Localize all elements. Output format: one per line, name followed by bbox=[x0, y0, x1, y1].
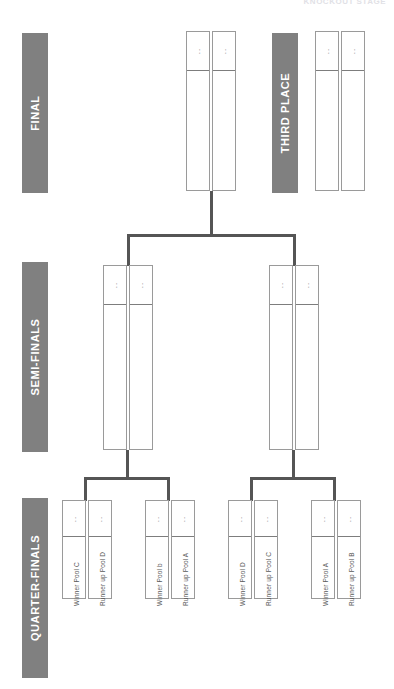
quarter-final-2-slot-1-score: .. bbox=[153, 515, 161, 521]
connector-semi-2-crossbar bbox=[250, 477, 336, 480]
quarter-final-1-slot-2-score-cell[interactable]: .. bbox=[89, 501, 111, 537]
connector-semi-2-left-drop bbox=[250, 477, 253, 501]
quarter-final-3-slot-1-score: .. bbox=[236, 515, 244, 521]
round-label-quarter-finals: QUARTER-FINALS bbox=[22, 498, 48, 678]
connector-final-left-drop bbox=[127, 234, 130, 266]
round-label-third-place: THIRD PLACE bbox=[272, 33, 298, 193]
round-label-quarter-finals-text: QUARTER-FINALS bbox=[29, 535, 41, 641]
quarter-final-3-slot-2-score: .. bbox=[262, 515, 270, 521]
quarter-final-3-slot-2-entrant: Runner up Pool C bbox=[265, 552, 272, 606]
quarter-final-3-slot-2-score-cell[interactable]: .. bbox=[255, 501, 277, 537]
connector-semi-2-stem bbox=[292, 450, 295, 478]
quarter-final-1-slot-2-entrant: Runner up Pool D bbox=[99, 552, 106, 606]
quarter-final-4-slot-2-score: .. bbox=[345, 515, 353, 521]
semi-final-1-slot-1-score: .. bbox=[111, 282, 119, 288]
quarter-final-3-slot-1-entrant: Winner Pool D bbox=[239, 562, 246, 606]
third-place-slot-2-score-cell[interactable]: .. bbox=[342, 32, 364, 71]
third-place-slot-1[interactable]: .. bbox=[315, 31, 339, 191]
semi-final-2-slot-2-score: .. bbox=[303, 282, 311, 288]
final-slot-1-score-cell[interactable]: .. bbox=[187, 32, 209, 71]
quarter-final-4-slot-2-score-cell[interactable]: .. bbox=[338, 501, 360, 537]
third-place-slot-2-score: .. bbox=[349, 48, 357, 54]
final-slot-1-score: .. bbox=[194, 48, 202, 54]
connector-semi-1-stem bbox=[126, 450, 129, 478]
final-slot-2-score: .. bbox=[220, 48, 228, 54]
connector-final-crossbar bbox=[127, 234, 296, 237]
connector-final-stem bbox=[210, 191, 213, 235]
semi-final-1-slot-2-score: .. bbox=[137, 282, 145, 288]
top-caption: KNOCKOUT STAGE bbox=[304, 0, 386, 6]
round-label-semi-finals: SEMI-FINALS bbox=[22, 262, 48, 452]
round-label-final-text: FINAL bbox=[29, 95, 41, 130]
quarter-final-1-slot-1-entrant: Winner Pool C bbox=[73, 562, 80, 606]
quarter-final-2-slot-2-score: .. bbox=[179, 515, 187, 521]
quarter-final-4-slot-1-score: .. bbox=[319, 515, 327, 521]
connector-semi-1-right-drop bbox=[167, 477, 170, 501]
semi-final-2-slot-1-score-cell[interactable]: .. bbox=[270, 266, 292, 305]
third-place-slot-2[interactable]: .. bbox=[341, 31, 365, 191]
round-label-third-place-text: THIRD PLACE bbox=[279, 73, 291, 154]
quarter-final-4-slot-1-score-cell[interactable]: .. bbox=[312, 501, 334, 537]
connector-semi-1-crossbar bbox=[84, 477, 170, 480]
final-slot-2[interactable]: .. bbox=[212, 31, 236, 191]
quarter-final-2-slot-1-score-cell[interactable]: .. bbox=[146, 501, 168, 537]
semi-final-1-slot-2[interactable]: .. bbox=[129, 265, 153, 450]
connector-semi-1-left-drop bbox=[84, 477, 87, 501]
semi-final-2-slot-2[interactable]: .. bbox=[295, 265, 319, 450]
connector-final-right-drop bbox=[293, 234, 296, 266]
semi-final-2-slot-2-score-cell[interactable]: .. bbox=[296, 266, 318, 305]
connector-semi-2-right-drop bbox=[333, 477, 336, 501]
third-place-slot-1-score: .. bbox=[323, 48, 331, 54]
semi-final-2-slot-1-score: .. bbox=[277, 282, 285, 288]
quarter-final-2-slot-1-entrant: Winner Pool b bbox=[156, 563, 163, 606]
semi-final-1-slot-2-score-cell[interactable]: .. bbox=[130, 266, 152, 305]
quarter-final-1-slot-1-score: .. bbox=[70, 515, 78, 521]
third-place-slot-1-score-cell[interactable]: .. bbox=[316, 32, 338, 71]
round-label-final: FINAL bbox=[22, 33, 48, 193]
tournament-bracket-diagram: KNOCKOUT STAGE FINAL THIRD PLACE SEMI-FI… bbox=[0, 0, 394, 689]
quarter-final-1-slot-1-score-cell[interactable]: .. bbox=[63, 501, 85, 537]
semi-final-1-slot-1-score-cell[interactable]: .. bbox=[104, 266, 126, 305]
quarter-final-2-slot-2-score-cell[interactable]: .. bbox=[172, 501, 194, 537]
round-label-semi-finals-text: SEMI-FINALS bbox=[29, 319, 41, 396]
final-slot-2-score-cell[interactable]: .. bbox=[213, 32, 235, 71]
final-slot-1[interactable]: .. bbox=[186, 31, 210, 191]
quarter-final-3-slot-1-score-cell[interactable]: .. bbox=[229, 501, 251, 537]
quarter-final-2-slot-2-entrant: Runner up Pool A bbox=[182, 553, 189, 606]
semi-final-1-slot-1[interactable]: .. bbox=[103, 265, 127, 450]
quarter-final-4-slot-2-entrant: Runner up Pool B bbox=[348, 552, 355, 606]
semi-final-2-slot-1[interactable]: .. bbox=[269, 265, 293, 450]
quarter-final-1-slot-2-score: .. bbox=[96, 515, 104, 521]
quarter-final-4-slot-1-entrant: Winner Pool A bbox=[322, 563, 329, 606]
